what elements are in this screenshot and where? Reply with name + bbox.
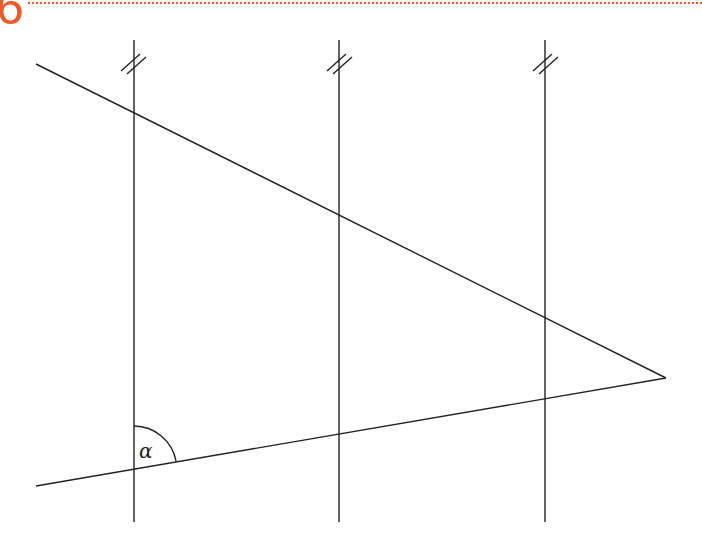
upper-ray — [36, 64, 666, 378]
lower-ray — [36, 378, 666, 486]
figure: 6 α — [0, 0, 702, 543]
angle-label-alpha: α — [139, 439, 153, 463]
geometry-diagram: α — [0, 0, 702, 543]
